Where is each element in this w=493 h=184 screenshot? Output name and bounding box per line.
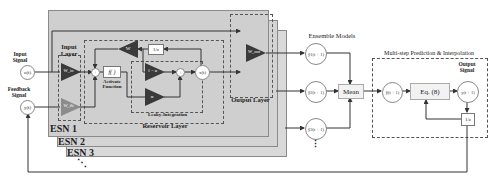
input-signal-label: Input Signal [8, 52, 32, 64]
feedback-signal-label: Feedback Signal [4, 87, 34, 99]
alpha-label: α [145, 94, 159, 99]
ensemble-output-1: ŷ1(t + 1) [305, 43, 327, 65]
reservoir-layer-title: Reservoir Layer [130, 123, 200, 130]
leaky-sum-node: + [176, 68, 185, 77]
equation-8-box: Eq. (8) [410, 83, 450, 100]
activation-caption: Activate Function [98, 79, 126, 90]
feedback-node-y: y(t) [20, 100, 35, 115]
input-node-u: u(t) [20, 65, 35, 80]
state-node-x: x(t) [195, 65, 210, 80]
input-layer-title: Input Layer [57, 44, 81, 58]
output-node-y: y(t + 1) [457, 81, 479, 103]
multistep-title: Multi-step Prediction & Interpolation [370, 50, 488, 56]
activation-function-box: f( ) [103, 66, 121, 78]
output-signal-label: Output Signal [454, 62, 480, 74]
ensemble-output-2: ŷ2(t + 1) [305, 81, 327, 103]
ensemble-title: Ensemble Models [302, 33, 362, 40]
w-out-label: W_out [246, 50, 262, 55]
mean-prediction-node: ŷ(t + 1) [382, 82, 403, 103]
output-layer-title: Output Layer [228, 97, 273, 104]
reservoir-delay-box: 1/z [148, 44, 164, 55]
reservoir-sum-node: + [91, 68, 100, 77]
ensemble-more-ellipsis: ⋮ [310, 140, 320, 149]
w-in-label: W_in [61, 69, 76, 74]
mean-box: Mean [338, 84, 364, 99]
leaky-integration-title: Leaky-Integration [140, 112, 195, 117]
output-delay-box: 1/z [461, 113, 475, 126]
ensemble-output-3: ŷ3(t + 1) [305, 118, 327, 140]
one-minus-alpha-label: 1 − α [145, 69, 160, 74]
w-recurrent-label: W [123, 46, 133, 51]
w-fb-label: W_fb [61, 104, 76, 109]
